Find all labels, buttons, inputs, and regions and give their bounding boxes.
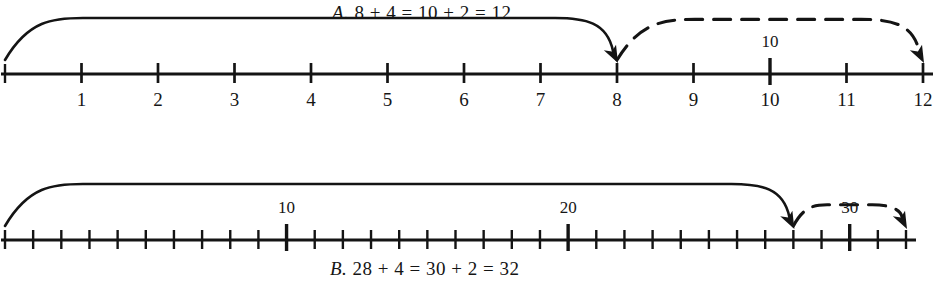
solid-jump-arc xyxy=(5,18,613,60)
tick-label: 4 xyxy=(306,89,316,111)
number-line-figure: A. 8 + 4 = 10 + 2 = 12 B. 28 + 4 = 30 + … xyxy=(0,0,933,290)
panel-b-caption-text: 28 + 4 = 30 + 2 = 32 xyxy=(353,258,520,279)
panel-a-caption-lead: A. xyxy=(332,2,349,23)
highlight-label: 30 xyxy=(841,198,858,218)
tick-label: 12 xyxy=(914,89,933,111)
panel-a-caption: A. 8 + 4 = 10 + 2 = 12 xyxy=(332,2,511,24)
panel-a-graphics xyxy=(1,18,933,85)
highlight-label: 10 xyxy=(278,198,295,218)
dashed-jump-arc-arrowhead xyxy=(910,44,930,66)
tick-label: 5 xyxy=(383,89,393,111)
tick-label: 7 xyxy=(536,89,546,111)
tick-label: 6 xyxy=(459,89,469,111)
tick-label: 1 xyxy=(77,89,87,111)
number-line-drawing xyxy=(0,0,933,290)
tick-label: 10 xyxy=(761,89,780,111)
tick-label: 11 xyxy=(837,89,855,111)
panel-b-graphics xyxy=(1,184,916,251)
highlight-label: 10 xyxy=(762,32,779,52)
tick-label: 9 xyxy=(689,89,699,111)
tick-label: 2 xyxy=(153,89,163,111)
panel-b-caption: B. 28 + 4 = 30 + 2 = 32 xyxy=(330,258,519,280)
highlight-label: 20 xyxy=(560,198,577,218)
tick-label: 3 xyxy=(230,89,240,111)
tick-label: 8 xyxy=(612,89,622,111)
panel-b-caption-lead: B. xyxy=(330,258,347,279)
solid-jump-arc xyxy=(5,184,789,226)
dashed-jump-arc-arrowhead xyxy=(893,210,913,232)
panel-a-caption-text: 8 + 4 = 10 + 2 = 12 xyxy=(355,2,512,23)
